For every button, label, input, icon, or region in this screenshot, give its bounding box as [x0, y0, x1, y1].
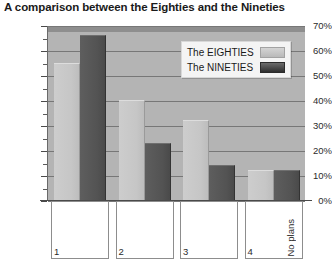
bar-eighties-4 — [248, 170, 274, 201]
category-label: 4 — [248, 246, 253, 257]
category-label: 1 — [54, 246, 59, 257]
gridline — [48, 26, 305, 27]
category-label: 3 — [183, 246, 188, 257]
category-box-4: 4No plans — [245, 201, 303, 259]
legend-swatch-eighties — [260, 47, 285, 58]
chart-container: A comparison between the Eighties and th… — [0, 0, 332, 271]
chart-legend: The EIGHTIES The NINETIES — [181, 41, 291, 78]
category-note-wrapper: No plans — [285, 206, 297, 256]
category-note-label: No plans — [285, 219, 296, 257]
legend-label-nineties: The NINETIES — [187, 62, 253, 73]
legend-entry-nineties: The NINETIES — [187, 60, 253, 75]
category-box-3: 3 — [180, 201, 238, 259]
legend-label-eighties: The EIGHTIES — [187, 47, 254, 58]
bar-eighties-1 — [54, 63, 80, 202]
bar-eighties-3 — [183, 120, 209, 201]
bar-eighties-2 — [119, 100, 145, 201]
category-box-1: 1 — [51, 201, 109, 259]
bar-nineties-1 — [80, 35, 106, 201]
bar-nineties-3 — [209, 165, 235, 201]
legend-swatch-nineties — [260, 62, 285, 73]
chart-title: A comparison between the Eighties and th… — [4, 1, 285, 13]
y-axis-tick-mark — [41, 201, 47, 202]
legend-entry-eighties: The EIGHTIES — [187, 45, 254, 60]
category-label: 2 — [119, 246, 124, 257]
bar-nineties-4 — [274, 170, 300, 201]
category-box-2: 2 — [116, 201, 174, 259]
bar-nineties-2 — [145, 143, 171, 202]
